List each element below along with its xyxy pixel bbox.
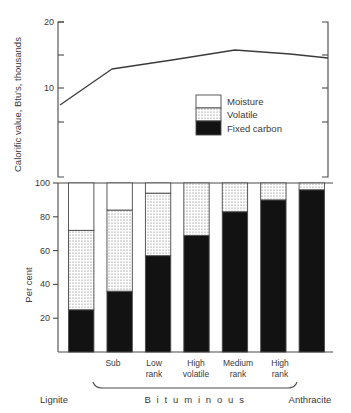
bar-segment-volatile <box>107 210 132 291</box>
bottom-chart-ytick-label-60: 60 <box>40 246 50 256</box>
bar-sub <box>107 183 132 352</box>
figure-canvas: Calorific value, Btu's, thousands 20 10 <box>0 0 351 413</box>
bar-segment-moisture <box>107 183 132 210</box>
legend: Moisture Volatile Fixed carbon <box>196 95 282 135</box>
bottom-chart-ytick-label-80: 80 <box>40 212 50 222</box>
calorific-value-curve <box>60 50 328 105</box>
top-chart-ytick-label-10: 10 <box>44 83 54 93</box>
top-chart-right-axis <box>322 22 328 177</box>
category-label-medium-rank-line2: rank <box>230 369 247 379</box>
bottom-stacked-bar-chart: Per cent 100 80 60 40 20 Sub Low <box>23 178 333 405</box>
category-labels: Sub Low rank High volatile Medium rank H… <box>105 358 289 379</box>
bar-segment-fixed-carbon <box>69 310 94 352</box>
bars-layer <box>69 183 325 352</box>
bar-lignite <box>69 183 94 352</box>
bar-segment-fixed-carbon <box>145 256 170 352</box>
bar-segment-volatile <box>184 183 209 235</box>
bar-low-rank <box>145 183 170 352</box>
category-label-high-rank-line2: rank <box>272 369 289 379</box>
bottom-chart-ytick-label-40: 40 <box>40 279 50 289</box>
bar-segment-moisture <box>69 183 94 230</box>
bituminous-bracket <box>93 382 297 388</box>
bar-segment-fixed-carbon <box>299 190 324 352</box>
bituminous-group-label: B i t u m i n o u s <box>144 394 245 405</box>
bar-anthracite <box>299 183 324 352</box>
top-chart-ytick-label-20: 20 <box>44 17 54 27</box>
category-label-high-volatile-line1: High <box>187 358 205 368</box>
legend-label-moisture: Moisture <box>227 96 263 107</box>
top-chart-y-axis-title: Calorific value, Btu's, thousands <box>12 37 23 172</box>
bar-high-volatile <box>184 183 209 352</box>
bar-segment-fixed-carbon <box>184 235 209 352</box>
legend-swatch-moisture <box>196 95 221 108</box>
top-line-chart: Calorific value, Btu's, thousands 20 10 <box>12 17 328 177</box>
category-label-sub-line1: Sub <box>105 358 120 368</box>
bottom-chart-ytick-label-100: 100 <box>35 178 50 188</box>
legend-swatch-fixed-carbon <box>196 121 221 135</box>
bar-segment-volatile <box>145 193 170 256</box>
bar-segment-volatile <box>69 230 94 309</box>
category-label-high-volatile-line2: volatile <box>183 369 210 379</box>
bar-segment-volatile <box>261 183 286 200</box>
category-label-low-rank-line1: Low <box>146 358 162 368</box>
legend-swatch-volatile <box>196 108 221 121</box>
lignite-label: Lignite <box>40 394 68 405</box>
bar-high-rank <box>261 183 286 352</box>
legend-label-fixed-carbon: Fixed carbon <box>227 123 282 134</box>
bottom-chart-ytick-label-20: 20 <box>40 313 50 323</box>
anthracite-label: Anthracite <box>289 394 332 405</box>
category-label-medium-rank-line1: Medium <box>223 358 253 368</box>
bar-segment-fixed-carbon <box>222 212 247 352</box>
bar-medium-rank <box>222 183 247 352</box>
bar-segment-volatile <box>222 183 247 212</box>
top-chart-left-axis <box>58 22 64 177</box>
chart-figure: Calorific value, Btu's, thousands 20 10 <box>0 0 351 413</box>
legend-label-volatile: Volatile <box>227 109 258 120</box>
bar-segment-fixed-carbon <box>107 291 132 352</box>
bar-segment-volatile <box>299 183 324 190</box>
bar-segment-fixed-carbon <box>261 200 286 352</box>
category-label-low-rank-line2: rank <box>146 369 163 379</box>
category-label-high-rank-line1: High <box>271 358 289 368</box>
bar-segment-moisture <box>145 183 170 193</box>
bottom-chart-y-axis-title: Per cent <box>23 267 34 303</box>
